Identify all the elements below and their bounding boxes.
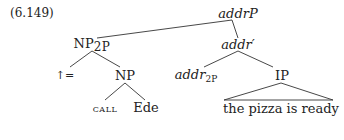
tree-edges bbox=[0, 0, 344, 140]
node-up-arrow-equals: ↑= bbox=[56, 70, 74, 81]
node-ip: IP bbox=[275, 69, 289, 82]
node-np2p: NP2P bbox=[74, 37, 111, 53]
leaf-ip-yield: the pizza is ready bbox=[223, 102, 339, 115]
leaf-ede: Ede bbox=[133, 101, 159, 114]
node-addr-bar: addr′ bbox=[221, 38, 255, 51]
node-np: NP bbox=[115, 69, 135, 82]
node-addr2p: addr2P bbox=[175, 68, 217, 84]
node-addrP: addrP bbox=[218, 7, 257, 20]
leaf-call: call bbox=[93, 102, 118, 114]
